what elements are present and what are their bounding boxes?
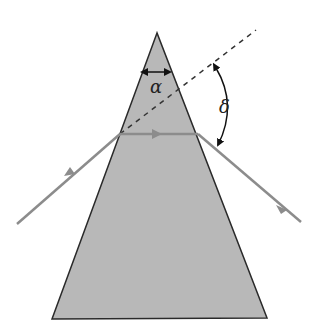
prism-diagram: α δ xyxy=(0,0,319,333)
alpha-label: α xyxy=(150,76,162,97)
delta-label: δ xyxy=(219,96,230,117)
diagram-svg: α δ xyxy=(0,0,319,333)
